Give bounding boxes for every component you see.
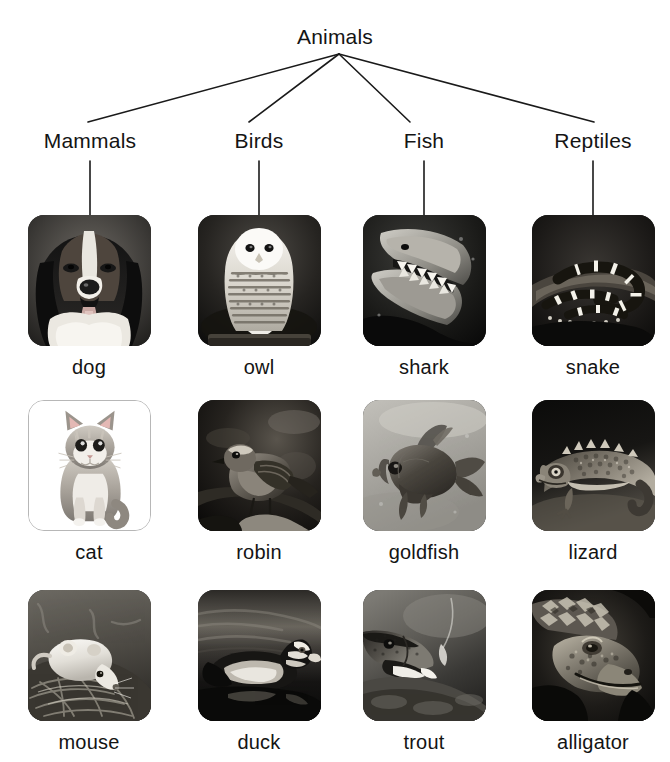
root-node-label: Animals (0, 24, 670, 50)
item-caption-duck: duck (174, 730, 344, 754)
item-cell-alligator: alligator (508, 590, 670, 754)
item-caption-cat: cat (4, 540, 174, 564)
item-caption-shark: shark (339, 355, 509, 379)
item-cell-dog: dog (4, 215, 174, 379)
branch-line-mammals (88, 54, 339, 122)
item-caption-mouse: mouse (4, 730, 174, 754)
branch-line-reptiles (339, 54, 594, 122)
duck-photo (198, 590, 321, 721)
item-caption-owl: owl (174, 355, 344, 379)
item-cell-goldfish: goldfish (339, 400, 509, 564)
item-cell-shark: shark (339, 215, 509, 379)
item-caption-alligator: alligator (508, 730, 670, 754)
item-cell-robin: robin (174, 400, 344, 564)
item-caption-dog: dog (4, 355, 174, 379)
branch-line-fish (339, 54, 410, 122)
snake-photo (532, 215, 655, 346)
item-cell-trout: trout (339, 590, 509, 754)
item-caption-trout: trout (339, 730, 509, 754)
dog-photo (28, 215, 151, 346)
item-cell-lizard: lizard (508, 400, 670, 564)
goldfish-photo (363, 400, 486, 531)
item-cell-owl: owl (174, 215, 344, 379)
category-label-reptiles: Reptiles (508, 128, 670, 154)
item-caption-goldfish: goldfish (339, 540, 509, 564)
alligator-photo (532, 590, 655, 721)
category-label-mammals: Mammals (5, 128, 175, 154)
item-cell-duck: duck (174, 590, 344, 754)
animal-classification-diagram: Animals Mammals Birds Fish Reptiles (0, 0, 670, 762)
shark-photo (363, 215, 486, 346)
mouse-photo (28, 590, 151, 721)
cat-photo (28, 400, 151, 531)
owl-photo (198, 215, 321, 346)
category-label-fish: Fish (339, 128, 509, 154)
branch-line-birds (249, 54, 339, 122)
category-label-birds: Birds (174, 128, 344, 154)
item-cell-cat: cat (4, 400, 174, 564)
trout-photo (363, 590, 486, 721)
item-caption-snake: snake (508, 355, 670, 379)
lizard-photo (532, 400, 655, 531)
item-caption-lizard: lizard (508, 540, 670, 564)
item-cell-mouse: mouse (4, 590, 174, 754)
item-caption-robin: robin (174, 540, 344, 564)
item-cell-snake: snake (508, 215, 670, 379)
robin-photo (198, 400, 321, 531)
